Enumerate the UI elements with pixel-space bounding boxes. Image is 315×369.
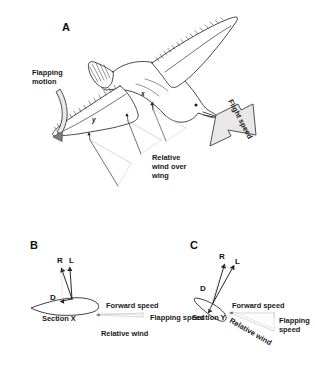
vector-label-r-c: R (219, 252, 225, 261)
flapping-motion-label-line1: Flapping (32, 68, 63, 77)
panel-b-letter: B (30, 239, 38, 251)
flapping-flight-figure: A (0, 0, 315, 369)
figure-root: A (0, 0, 315, 369)
gull-eye (195, 104, 198, 107)
relative-wind-over-wing-line1: Relative (152, 153, 180, 162)
flapping-speed-label-c-line1: Flapping (279, 316, 310, 325)
vector-lift-c (213, 265, 234, 303)
forward-speed-label-b: Forward speed (106, 301, 159, 310)
relative-wind-label-b: Relative wind (101, 329, 149, 338)
flapping-speed-label-c-line2: speed (279, 325, 301, 334)
vector-label-l-c: L (235, 257, 240, 266)
section-x-label: Section X (42, 314, 76, 323)
flapping-motion-label-line2: motion (32, 77, 57, 86)
section-marker-y: y (91, 116, 96, 124)
relative-wind-label-c-text: Relative wind (228, 316, 274, 348)
vector-lift-b (67, 267, 72, 300)
vector-label-l-b: L (69, 256, 74, 265)
velocity-triangle-b (97, 313, 143, 317)
relative-wind-over-wing-line3: wing (151, 171, 169, 180)
section-marker-x: x (140, 90, 145, 97)
forward-speed-label-c: Forward speed (232, 301, 285, 310)
panel-a-letter: A (62, 21, 70, 33)
vector-label-d-b: D (50, 293, 56, 302)
panel-c-letter: C (190, 239, 198, 251)
panel-b: B R L D S (30, 239, 205, 338)
panel-c: C R L D S (190, 239, 310, 348)
relative-wind-label-c: Relative wind (228, 316, 274, 348)
relative-wind-over-wing-line2: wind over (151, 162, 187, 171)
section-y-label: Section Y (192, 313, 226, 322)
vector-label-d-c: D (200, 284, 206, 293)
vector-label-r-b: R (57, 256, 63, 265)
panel-a: A (32, 17, 256, 186)
